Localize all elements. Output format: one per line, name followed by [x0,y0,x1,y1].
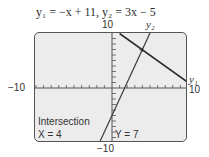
intersection-title: Intersection [38,116,90,127]
y2-curve-label: y₂ [146,18,155,30]
y-readout: Y = 7 [115,129,138,140]
x-readout: X = 4 [38,129,62,140]
xmax-label: 10 [189,84,200,95]
y1-line [120,34,187,83]
xmin-label: −10 [8,82,25,93]
calculator-screen: Intersection X = 4 Y = 7 [34,32,187,142]
ymax-label: 10 [102,19,113,30]
equation-header: y₁ = −x + 11, y₂ = 3x − 5 [36,5,156,20]
equation-text: y₁ = −x + 11, y₂ = 3x − 5 [36,5,156,19]
ymin-label: −10 [97,143,114,154]
